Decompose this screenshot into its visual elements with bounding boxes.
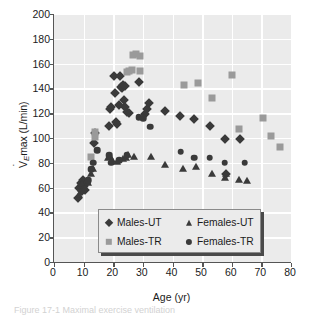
data-point-females-ut — [161, 161, 169, 168]
data-point-females-tr — [94, 147, 101, 154]
data-point-females-ut — [179, 165, 187, 172]
data-point-females-tr — [177, 148, 184, 155]
y-tick-mark — [50, 163, 54, 164]
y-tick-mark — [50, 113, 54, 114]
legend-label: Females-UT — [197, 217, 254, 228]
x-tick-label: 30 — [129, 266, 155, 278]
data-point-males-tr — [259, 115, 266, 122]
legend-row: Males-UT Females-UT — [104, 213, 255, 232]
y-tick-label: 60 — [24, 182, 50, 194]
y-tick-mark — [50, 188, 54, 189]
data-point-females-tr — [147, 124, 154, 131]
diamond-marker-icon — [104, 218, 113, 227]
gridline-vertical — [84, 14, 85, 262]
x-tick-label: 20 — [99, 266, 125, 278]
legend-item-males-ut: Males-UT — [104, 217, 184, 228]
chart-legend: Males-UT Females-UT Males-TR Females-TR — [98, 209, 261, 253]
data-point-females-ut — [243, 177, 251, 184]
data-point-males-tr — [236, 126, 243, 133]
gridline-vertical — [291, 14, 292, 262]
data-point-females-ut — [130, 152, 138, 159]
legend-row: Males-TR Females-TR — [104, 232, 255, 251]
y-tick-label: 180 — [24, 33, 50, 45]
data-point-males-tr — [229, 71, 236, 78]
y-tick-mark — [50, 88, 54, 89]
data-point-females-tr — [207, 155, 214, 162]
x-tick-label: 0 — [40, 266, 66, 278]
data-point-males-tr — [194, 80, 201, 87]
data-point-females-ut — [222, 170, 230, 177]
data-point-females-tr — [116, 157, 123, 164]
data-point-females-tr — [85, 177, 92, 184]
square-marker-icon — [104, 237, 113, 246]
data-point-females-tr — [124, 152, 131, 159]
figure-caption: Figure 17-1 Maximal exercise ventilation — [14, 305, 175, 315]
data-point-males-ut — [189, 114, 199, 124]
figure-container: VEmax (L/min) Age (yr) 02040608010012014… — [0, 0, 318, 315]
data-point-males-tr — [181, 81, 188, 88]
data-point-females-tr — [241, 160, 248, 167]
data-point-females-ut — [192, 162, 200, 169]
legend-item-females-tr: Females-TR — [184, 236, 254, 247]
data-point-males-tr — [128, 66, 135, 73]
legend-label: Males-TR — [117, 236, 162, 247]
data-point-males-tr — [136, 53, 143, 60]
circle-marker-icon — [184, 237, 193, 246]
y-tick-mark — [50, 237, 54, 238]
data-point-males-ut — [235, 134, 245, 144]
y-tick-label: 20 — [24, 231, 50, 243]
data-point-females-tr — [90, 160, 97, 167]
y-tick-label: 200 — [24, 8, 50, 20]
data-point-males-ut — [220, 134, 230, 144]
data-point-males-ut — [205, 121, 215, 131]
y-tick-mark — [50, 39, 54, 40]
data-point-females-tr — [191, 155, 198, 162]
data-point-females-tr — [106, 152, 113, 159]
data-point-males-tr — [92, 133, 99, 140]
data-point-females-tr — [221, 160, 228, 167]
data-point-females-tr — [140, 115, 147, 122]
x-tick-label: 40 — [159, 266, 185, 278]
y-tick-mark — [50, 138, 54, 139]
x-tick-label: 10 — [70, 266, 96, 278]
data-point-males-tr — [277, 143, 284, 150]
data-point-males-tr — [267, 132, 274, 139]
x-tick-label: 50 — [188, 266, 214, 278]
legend-item-males-tr: Males-TR — [104, 236, 184, 247]
data-point-females-ut — [147, 152, 155, 159]
y-tick-mark — [50, 212, 54, 213]
y-tick-label: 80 — [24, 157, 50, 169]
y-tick-mark — [50, 14, 54, 15]
data-point-females-ut — [75, 191, 83, 198]
triangle-marker-icon — [184, 218, 193, 227]
data-point-males-tr — [136, 68, 143, 75]
legend-label: Females-TR — [197, 236, 254, 247]
x-tick-label: 80 — [277, 266, 303, 278]
y-tick-mark — [50, 64, 54, 65]
y-tick-label: 120 — [24, 107, 50, 119]
y-tick-label: 40 — [24, 206, 50, 218]
x-tick-label: 70 — [247, 266, 273, 278]
legend-label: Males-UT — [117, 217, 162, 228]
y-tick-label: 100 — [24, 132, 50, 144]
gridline-vertical — [261, 14, 262, 262]
data-point-females-ut — [208, 170, 216, 177]
x-axis-title: Age (yr) — [53, 291, 290, 303]
x-tick-label: 60 — [218, 266, 244, 278]
data-point-females-tr — [108, 160, 115, 167]
data-point-females-tr — [88, 166, 95, 173]
y-tick-label: 140 — [24, 82, 50, 94]
legend-item-females-ut: Females-UT — [184, 217, 254, 228]
data-point-males-tr — [209, 95, 216, 102]
y-tick-label: 160 — [24, 58, 50, 70]
